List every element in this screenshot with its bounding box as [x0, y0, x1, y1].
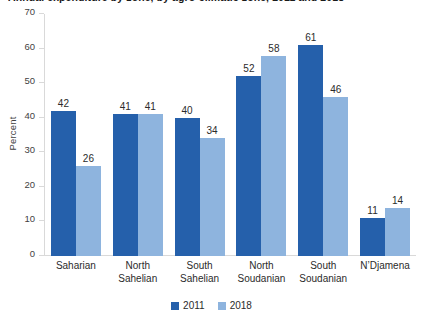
bar[interactable]: [323, 97, 348, 256]
y-tick-label: 60: [24, 41, 35, 52]
bar-value-label: 41: [119, 101, 132, 113]
y-tick-label: 40: [24, 110, 35, 121]
x-tick-label-line: Saharian: [45, 259, 107, 272]
bar[interactable]: [385, 208, 410, 256]
bar-wrap: 41: [138, 14, 163, 256]
bar-wrap: 61: [298, 14, 323, 256]
x-tick-label-line: Sahelian: [107, 272, 169, 285]
bar-group: 4141: [107, 14, 169, 256]
bar[interactable]: [138, 114, 163, 256]
bar-value-label: 61: [304, 32, 317, 44]
bar-value-label: 34: [206, 125, 219, 137]
bar[interactable]: [236, 76, 261, 256]
bar-group: 4226: [45, 14, 107, 256]
bar-group: 6146: [292, 14, 354, 256]
y-tick: 20: [39, 186, 44, 187]
legend-item[interactable]: 2018: [218, 300, 252, 311]
bar-wrap: 42: [51, 14, 76, 256]
x-tick-label: SouthSahelian: [169, 259, 231, 285]
bar-wrap: 46: [323, 14, 348, 256]
x-tick-label-line: N’Djamena: [354, 259, 416, 272]
x-tick-label-line: South: [169, 259, 231, 272]
y-tick-label: 70: [24, 6, 35, 17]
bar-value-label: 41: [144, 101, 157, 113]
legend-swatch: [218, 302, 226, 310]
y-axis-label: Percent: [7, 99, 18, 169]
bar-chart: Annual expenditure by zone, by agro-clim…: [0, 0, 423, 320]
legend-swatch: [171, 302, 179, 310]
bar-group-bars: 1114: [354, 14, 416, 256]
bar-group-bars: 4226: [45, 14, 107, 256]
bar-wrap: 26: [76, 14, 101, 256]
bar[interactable]: [298, 45, 323, 256]
x-tick-label-line: North: [107, 259, 169, 272]
x-axis-labels: SaharianNorthSahelianSouthSahelianNorthS…: [45, 259, 416, 285]
bar-wrap: 11: [360, 14, 385, 256]
x-tick-label: NorthSoudanian: [230, 259, 292, 285]
bar-wrap: 41: [113, 14, 138, 256]
y-tick: 70: [39, 13, 44, 14]
y-tick: 0: [39, 255, 44, 256]
bar-group: 1114: [354, 14, 416, 256]
bar-group-bars: 5258: [230, 14, 292, 256]
y-tick: 10: [39, 220, 44, 221]
y-tick-label: 20: [24, 179, 35, 190]
bar[interactable]: [175, 118, 200, 256]
bar-wrap: 52: [236, 14, 261, 256]
bar-value-label: 11: [366, 205, 378, 217]
x-tick-label: SouthSoudanian: [292, 259, 354, 285]
x-tick-label-line: Sahelian: [169, 272, 231, 285]
plot-area: 706050403020100 422641414034525861461114: [44, 14, 416, 256]
y-tick: 30: [39, 151, 44, 152]
chart-legend: 20112018: [0, 300, 423, 311]
bar[interactable]: [76, 166, 101, 256]
bar-value-label: 52: [242, 63, 255, 75]
bar-value-label: 14: [391, 195, 404, 207]
x-tick-label: N’Djamena: [354, 259, 416, 285]
bar-group-bars: 4141: [107, 14, 169, 256]
bar-groups: 422641414034525861461114: [45, 14, 416, 256]
x-tick-label-line: Soudanian: [230, 272, 292, 285]
bar-value-label: 26: [82, 153, 95, 165]
bar-value-label: 46: [329, 84, 342, 96]
y-tick: 40: [39, 117, 44, 118]
y-tick-label: 50: [24, 75, 35, 86]
bar[interactable]: [51, 111, 76, 256]
bar[interactable]: [200, 138, 225, 256]
bar[interactable]: [113, 114, 138, 256]
legend-label: 2011: [183, 300, 205, 311]
legend-item[interactable]: 2011: [171, 300, 205, 311]
y-tick-label: 30: [24, 144, 35, 155]
bar-group: 4034: [169, 14, 231, 256]
bar[interactable]: [360, 218, 385, 256]
bar-value-label: 42: [57, 98, 70, 110]
y-tick-label: 0: [30, 248, 35, 259]
x-tick-label: Saharian: [45, 259, 107, 285]
chart-title: Annual expenditure by zone, by agro-clim…: [8, 0, 418, 3]
x-tick-label-line: North: [230, 259, 292, 272]
bar-group: 5258: [230, 14, 292, 256]
bar-group-bars: 4034: [169, 14, 231, 256]
y-tick: 60: [39, 48, 44, 49]
y-tick: 50: [39, 82, 44, 83]
bar-wrap: 58: [261, 14, 286, 256]
bar-value-label: 58: [267, 43, 280, 55]
x-tick-label-line: Soudanian: [292, 272, 354, 285]
legend-label: 2018: [230, 300, 252, 311]
bar-value-label: 40: [181, 105, 194, 117]
y-tick-label: 10: [24, 213, 35, 224]
bar-wrap: 14: [385, 14, 410, 256]
bar-group-bars: 6146: [292, 14, 354, 256]
bar-wrap: 34: [200, 14, 225, 256]
bar-wrap: 40: [175, 14, 200, 256]
bar[interactable]: [261, 56, 286, 257]
x-tick-label-line: South: [292, 259, 354, 272]
x-tick-label: NorthSahelian: [107, 259, 169, 285]
